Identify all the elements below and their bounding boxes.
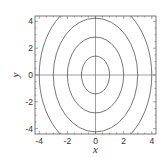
y-tick-labels: -4-2024 [25,16,33,133]
x-tick-label: 4 [149,136,154,146]
x-tick-label: 2 [121,136,126,146]
plot-area [35,0,156,151]
x-tick-label: -4 [35,136,43,146]
x-tick-label: -2 [64,136,72,146]
y-tick-label: 0 [28,70,33,80]
y-tick-label: -4 [25,124,33,134]
y-axis-label: y [9,72,21,78]
y-tick-label: 4 [28,16,33,26]
y-tick-label: 2 [28,43,33,53]
x-axis-label: x [92,143,98,155]
y-tick-label: -2 [25,97,33,107]
contour-chart: -4-2024 -4-2024 x y [0,0,166,157]
